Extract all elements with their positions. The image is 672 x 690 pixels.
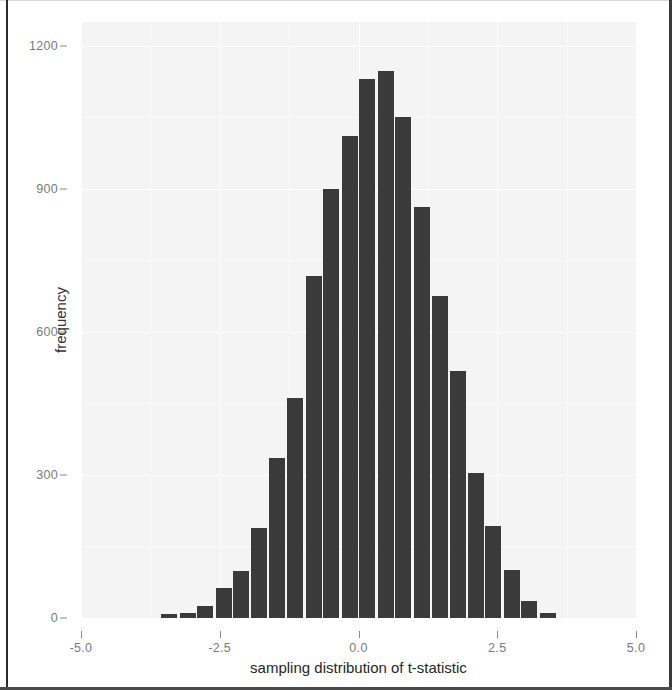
gridline-vertical-minor <box>150 22 151 618</box>
histogram-bar <box>504 570 520 618</box>
histogram-bar <box>359 79 375 618</box>
x-tick-mark <box>497 631 498 638</box>
histogram-bar <box>180 613 196 618</box>
histogram-bar <box>269 458 285 618</box>
plot-panel <box>81 22 636 618</box>
histogram-bar <box>378 71 394 618</box>
histogram-bar <box>432 296 448 618</box>
y-tick-label: 0 <box>51 611 58 625</box>
gridline-vertical <box>81 22 82 618</box>
x-tick-label: 0.0 <box>349 641 367 655</box>
x-tick-mark <box>359 631 360 638</box>
y-tick-label: 1200 <box>29 39 58 53</box>
x-tick-label: 2.5 <box>488 641 506 655</box>
x-tick-mark <box>81 631 82 638</box>
gridline-vertical <box>220 22 221 618</box>
histogram-bar <box>540 613 556 618</box>
x-tick-mark <box>636 631 637 638</box>
y-axis-label: frequency <box>52 260 69 380</box>
histogram-bar <box>287 398 303 618</box>
histogram-bar <box>521 601 537 618</box>
histogram-bar <box>197 606 213 618</box>
y-tick-mark <box>60 45 67 46</box>
histogram-bar <box>251 528 267 618</box>
histogram-bar <box>395 117 411 618</box>
x-tick-mark <box>220 631 221 638</box>
figure-page: 03006009001200 -5.0-2.50.02.55.0 frequen… <box>0 0 672 690</box>
histogram-bar <box>450 371 466 618</box>
x-tick-label: 5.0 <box>627 641 645 655</box>
histogram-bar <box>233 571 249 618</box>
histogram-bar <box>161 614 177 618</box>
histogram-bar <box>342 136 358 618</box>
scan-edge-top <box>0 0 672 1</box>
y-tick-mark <box>60 474 67 475</box>
y-tick-mark <box>60 188 67 189</box>
histogram-bar <box>414 207 430 618</box>
gridline-vertical-minor <box>567 22 568 618</box>
x-tick-label: -5.0 <box>70 641 93 655</box>
y-tick-label: 300 <box>36 468 58 482</box>
histogram-bar <box>485 526 501 618</box>
x-tick-label: -2.5 <box>208 641 231 655</box>
histogram-bar <box>216 588 232 618</box>
histogram-bar <box>468 473 484 618</box>
y-tick-label: 900 <box>36 182 58 196</box>
histogram-bar <box>323 189 339 618</box>
x-axis-label: sampling distribution of t-statistic <box>81 659 636 676</box>
y-tick-mark <box>60 618 67 619</box>
histogram-bar <box>306 276 322 618</box>
